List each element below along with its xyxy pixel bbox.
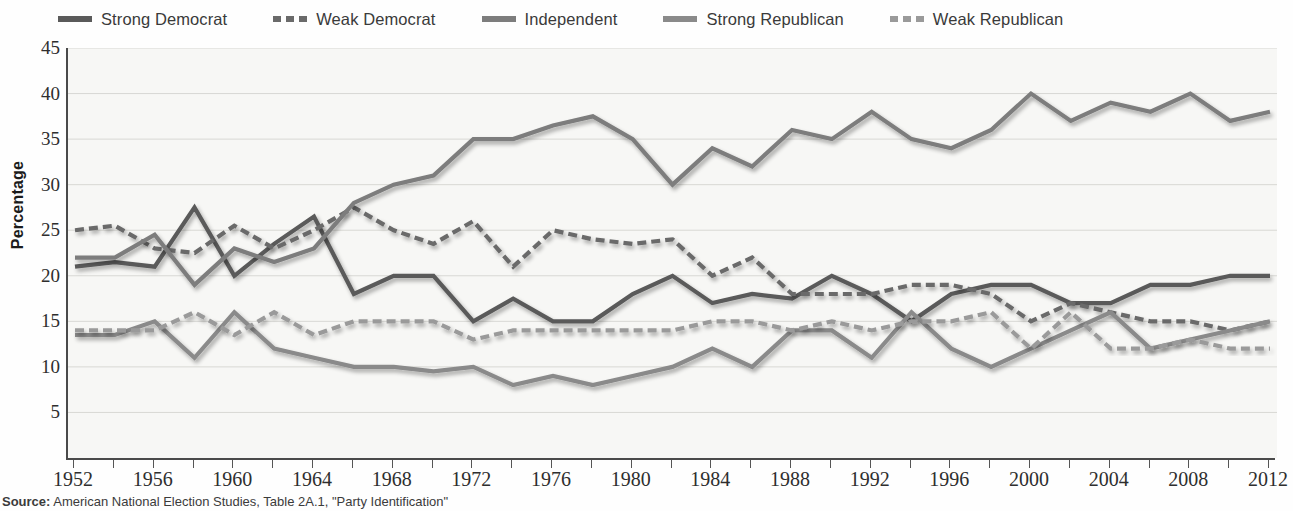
x-axis-tick-label: 1960 bbox=[212, 468, 252, 491]
x-axis-tick bbox=[1149, 460, 1150, 468]
x-axis-tick bbox=[312, 460, 313, 468]
x-axis-tick bbox=[989, 460, 990, 468]
legend-solid-line-icon bbox=[482, 16, 516, 22]
x-axis-tick-label: 1952 bbox=[53, 468, 93, 491]
legend-item-label: Weak Democrat bbox=[316, 10, 435, 29]
plot-area bbox=[66, 48, 1277, 458]
legend-item-label: Independent bbox=[525, 10, 618, 29]
x-axis-tick bbox=[591, 460, 592, 468]
x-axis-tick bbox=[1268, 460, 1269, 468]
legend-item[interactable]: Weak Republican bbox=[890, 10, 1064, 29]
x-axis-tick-label: 2012 bbox=[1248, 468, 1288, 491]
series-line bbox=[75, 207, 1270, 321]
x-axis-tick bbox=[671, 460, 672, 468]
x-axis-tick-label: 1988 bbox=[770, 468, 810, 491]
x-axis-tick-label: 1992 bbox=[850, 468, 890, 491]
legend-item[interactable]: Strong Republican bbox=[663, 10, 843, 29]
x-axis-tick bbox=[113, 460, 114, 468]
y-axis-tick-label: 40 bbox=[4, 83, 60, 105]
x-axis-tick-label: 1964 bbox=[292, 468, 332, 491]
series-line bbox=[75, 94, 1270, 285]
series-line bbox=[75, 207, 1270, 330]
party-identification-chart: Strong DemocratWeak DemocratIndependentS… bbox=[0, 0, 1293, 511]
x-axis-tick bbox=[232, 460, 233, 468]
legend-item[interactable]: Weak Democrat bbox=[273, 10, 435, 29]
x-axis-tick bbox=[272, 460, 273, 468]
x-axis-tick bbox=[750, 460, 751, 468]
x-axis-tick-label: 2004 bbox=[1089, 468, 1129, 491]
y-axis-tick-label: 35 bbox=[4, 128, 60, 150]
x-axis-tick bbox=[392, 460, 393, 468]
x-axis-tick-label: 2008 bbox=[1168, 468, 1208, 491]
x-axis-tick-label: 1996 bbox=[929, 468, 969, 491]
series-canvas bbox=[68, 48, 1277, 458]
y-axis-tick-label: 25 bbox=[4, 219, 60, 241]
y-axis-tick-label: 30 bbox=[4, 174, 60, 196]
x-axis-tick bbox=[352, 460, 353, 468]
x-axis-tick bbox=[949, 460, 950, 468]
x-axis-tick bbox=[73, 460, 74, 468]
y-axis-tick-label: 45 bbox=[4, 37, 60, 59]
y-axis-tick-label: 10 bbox=[4, 356, 60, 378]
x-axis-tick-label: 1984 bbox=[690, 468, 730, 491]
legend-item-label: Strong Republican bbox=[706, 10, 843, 29]
y-axis-tick-label: 5 bbox=[4, 401, 60, 423]
chart-legend: Strong DemocratWeak DemocratIndependentS… bbox=[0, 4, 1293, 34]
x-axis-tick bbox=[551, 460, 552, 468]
x-axis-tick bbox=[1069, 460, 1070, 468]
x-axis-tick-label: 1980 bbox=[611, 468, 651, 491]
legend-item-label: Strong Democrat bbox=[101, 10, 227, 29]
legend-solid-line-icon bbox=[663, 16, 697, 22]
x-axis-tick-label: 2000 bbox=[1009, 468, 1049, 491]
legend-dashed-line-icon bbox=[273, 16, 307, 22]
source-note: Source: American National Election Studi… bbox=[2, 494, 1282, 509]
x-axis-tick bbox=[432, 460, 433, 468]
legend-item-label: Weak Republican bbox=[933, 10, 1064, 29]
x-axis-tick bbox=[1188, 460, 1189, 468]
x-axis-tick bbox=[631, 460, 632, 468]
y-axis-tick-label: 15 bbox=[4, 310, 60, 332]
x-axis-tick bbox=[870, 460, 871, 468]
legend-item[interactable]: Strong Democrat bbox=[58, 10, 227, 29]
x-axis-tick bbox=[790, 460, 791, 468]
x-axis-tick bbox=[153, 460, 154, 468]
x-axis-tick-labels: 1952195619601964196819721976198019841988… bbox=[66, 468, 1275, 496]
x-axis-tick-label: 1976 bbox=[531, 468, 571, 491]
x-axis-tick bbox=[193, 460, 194, 468]
x-axis-tick bbox=[1029, 460, 1030, 468]
x-axis-tick bbox=[1228, 460, 1229, 468]
x-axis-tick-label: 1968 bbox=[372, 468, 412, 491]
x-axis-tick bbox=[511, 460, 512, 468]
legend-dashed-line-icon bbox=[890, 16, 924, 22]
x-axis-tick bbox=[830, 460, 831, 468]
y-axis-tick-labels: 51015202530354045 bbox=[0, 48, 60, 458]
source-label: Source: bbox=[2, 494, 50, 509]
y-axis-tick-label: 20 bbox=[4, 265, 60, 287]
legend-solid-line-icon bbox=[58, 16, 92, 22]
x-axis-tick bbox=[471, 460, 472, 468]
x-axis-tick bbox=[910, 460, 911, 468]
source-text: American National Election Studies, Tabl… bbox=[50, 494, 448, 509]
x-axis-tick-label: 1956 bbox=[133, 468, 173, 491]
x-axis-tick bbox=[1109, 460, 1110, 468]
x-axis-tick bbox=[710, 460, 711, 468]
series-line bbox=[75, 312, 1270, 385]
legend-item[interactable]: Independent bbox=[482, 10, 618, 29]
x-axis-tick-label: 1972 bbox=[451, 468, 491, 491]
